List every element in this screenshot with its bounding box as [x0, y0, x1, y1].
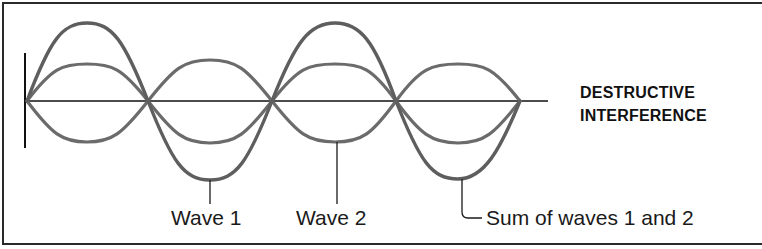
title-line-1: DESTRUCTIVE: [580, 81, 707, 104]
sum-leader: [462, 179, 482, 218]
title-line-2: INTERFERENCE: [580, 104, 707, 127]
wave-2-label: Wave 2: [296, 206, 366, 230]
diagram-title: DESTRUCTIVE INTERFERENCE: [580, 81, 707, 127]
wave-1-label: Wave 1: [171, 206, 241, 230]
sum-label: Sum of waves 1 and 2: [486, 206, 694, 230]
